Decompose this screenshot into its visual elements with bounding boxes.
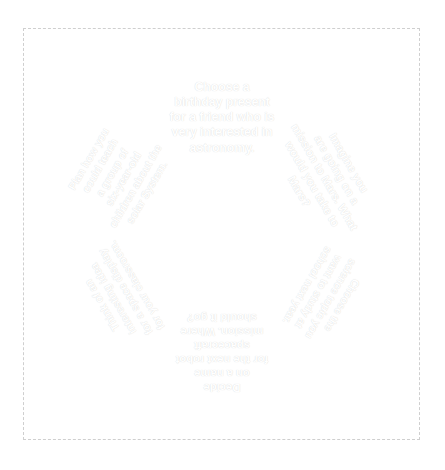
choice-wheel[interactable]: Decide on a name for the next robot spac… [35, 49, 409, 423]
wheel-graphic [35, 49, 409, 423]
wheel-hub[interactable] [213, 227, 231, 245]
page-root: Decide on a name for the next robot spac… [0, 0, 445, 470]
